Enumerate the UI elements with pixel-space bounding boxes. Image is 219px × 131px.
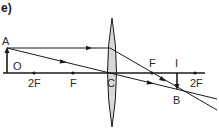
label-right-f: F (149, 57, 156, 69)
label-b: B (173, 94, 180, 106)
label-a: A (2, 35, 10, 47)
ray-center-arrow-left (60, 59, 68, 63)
label-left-f: F (70, 77, 77, 89)
label-o: O (13, 60, 22, 72)
label-i: I (175, 57, 178, 69)
diagram-title: e) (1, 1, 12, 15)
label-left-2f: 2F (28, 77, 41, 89)
right-2f-point (193, 71, 196, 74)
left-2f-point (32, 71, 35, 74)
label-c: C (107, 77, 115, 89)
left-f-point (71, 71, 74, 74)
label-right-2f: 2F (190, 77, 203, 89)
ray-center-arrow-right (147, 80, 155, 84)
ray-parallel-arrow (86, 46, 92, 50)
ray-diagram: e) A O 2F F C F I 2F B (0, 0, 219, 131)
